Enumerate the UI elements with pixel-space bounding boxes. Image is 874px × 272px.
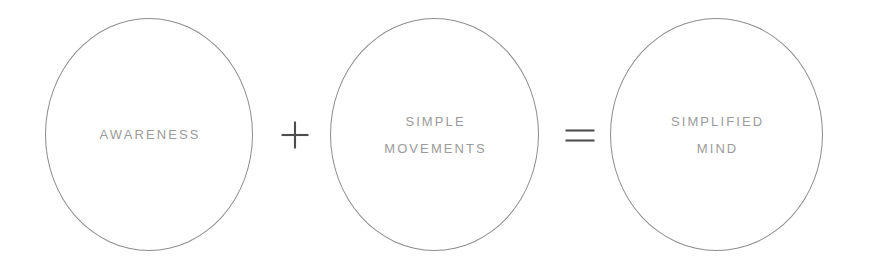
- circle-awareness-line-1: AWARENESS: [97, 121, 200, 148]
- circle-simple-movements-line-1: SIMPLE: [403, 108, 465, 135]
- plus-icon: [281, 121, 309, 149]
- circle-simple-movements: SIMPLE MOVEMENTS: [330, 18, 539, 251]
- circle-simplified-mind-line-1: SIMPLIFIED: [669, 108, 764, 135]
- equation-diagram: AWARENESS SIMPLE MOVEMENTS SIMPLIFIED MI…: [0, 0, 874, 272]
- circle-simplified-mind: SIMPLIFIED MIND: [610, 18, 823, 251]
- equals-icon: [565, 124, 595, 146]
- circle-simple-movements-line-2: MOVEMENTS: [382, 135, 487, 162]
- circle-awareness: AWARENESS: [45, 18, 253, 251]
- circle-simplified-mind-line-2: MIND: [695, 135, 739, 162]
